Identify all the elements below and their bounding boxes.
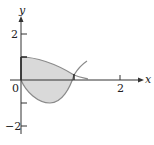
origin-label: 0 bbox=[12, 82, 19, 95]
x-tick-label-2: 2 bbox=[117, 82, 124, 95]
x-axis-arrow-icon bbox=[138, 78, 144, 83]
x-axis-label: x bbox=[145, 73, 152, 86]
region-between-curves-figure: y x 0 2 2 −2 bbox=[0, 0, 154, 145]
y-axis-label: y bbox=[18, 4, 26, 17]
y-tick-label-neg2: −2 bbox=[5, 120, 21, 133]
y-tick-label-2: 2 bbox=[11, 28, 18, 41]
